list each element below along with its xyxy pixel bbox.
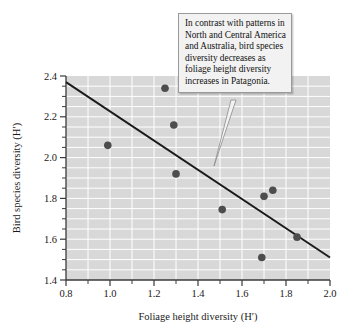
y-tick-label: 1.6 — [44, 234, 57, 245]
y-tick-label: 2.0 — [44, 152, 57, 163]
data-point — [218, 206, 226, 214]
data-point — [170, 121, 178, 129]
callout-pointer-icon — [178, 100, 248, 172]
y-axis-title: Bird species diversity (H′) — [11, 122, 23, 233]
x-tick-label: 1.2 — [147, 288, 160, 299]
y-tick-label: 1.8 — [44, 193, 57, 204]
x-tick-label: 0.8 — [59, 288, 72, 299]
x-tick-label: 2.0 — [323, 288, 336, 299]
x-tick-label: 1.6 — [235, 288, 248, 299]
y-tick-label: 2.4 — [44, 71, 58, 82]
annotation-callout-text: In contrast with patterns in North and C… — [185, 18, 286, 88]
data-point — [260, 193, 268, 201]
data-point — [104, 142, 112, 150]
chart-canvas: 0.81.01.21.41.61.82.01.41.61.82.02.22.4 … — [0, 0, 347, 331]
scatter-plot-figure: 0.81.01.21.41.61.82.01.41.61.82.02.22.4 … — [0, 0, 347, 331]
y-tick-label: 1.4 — [44, 275, 58, 286]
data-point — [269, 186, 277, 194]
data-point — [258, 254, 266, 262]
y-tick-label: 2.2 — [44, 111, 57, 122]
annotation-callout: In contrast with patterns in North and C… — [178, 13, 292, 93]
x-tick-label: 1.4 — [191, 288, 205, 299]
x-tick-label: 1.8 — [279, 288, 292, 299]
x-tick-label: 1.0 — [103, 288, 116, 299]
data-point — [293, 233, 301, 241]
data-point — [161, 84, 169, 92]
x-axis-title: Foliage height diversity (H′) — [138, 311, 258, 323]
